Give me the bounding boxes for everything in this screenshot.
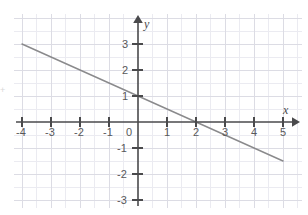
x-tick-label-1: 1: [164, 127, 170, 138]
x-tick-label-5: 5: [280, 127, 286, 138]
y-tick-label--3: -3: [117, 195, 127, 206]
plot-canvas: [0, 0, 308, 215]
x-tick-label--2: -2: [74, 127, 84, 138]
x-tick-label--3: -3: [45, 127, 55, 138]
y-axis-arrow: [133, 15, 143, 23]
edge-artifact-mark: +: [0, 86, 5, 95]
x-axis-label: x: [283, 104, 288, 116]
y-axis-label: y: [144, 18, 149, 30]
y-tick-label--2: -2: [117, 169, 127, 180]
grid-major: [14, 14, 302, 208]
x-tick-label--1: -1: [103, 127, 113, 138]
x-axis-arrow: [292, 117, 300, 127]
grid-horizontal: [14, 18, 302, 200]
x-tick-label-4: 4: [251, 127, 257, 138]
y-tick-label-2: 2: [122, 65, 128, 76]
origin-label: 0: [126, 127, 132, 138]
x-tick-label-3: 3: [222, 127, 228, 138]
x-tick-label--4: -4: [16, 127, 26, 138]
grid-vertical: [22, 14, 298, 208]
x-tick-label-2: 2: [193, 127, 199, 138]
y-tick-label-1: 1: [122, 91, 128, 102]
y-tick-label-3: 3: [122, 39, 128, 50]
y-tick-label--1: -1: [117, 143, 127, 154]
graph-figure: -4 -3 -2 -1 1 2 3 4 5 3 2 1 -1 -2 -3 0 y…: [0, 0, 308, 215]
